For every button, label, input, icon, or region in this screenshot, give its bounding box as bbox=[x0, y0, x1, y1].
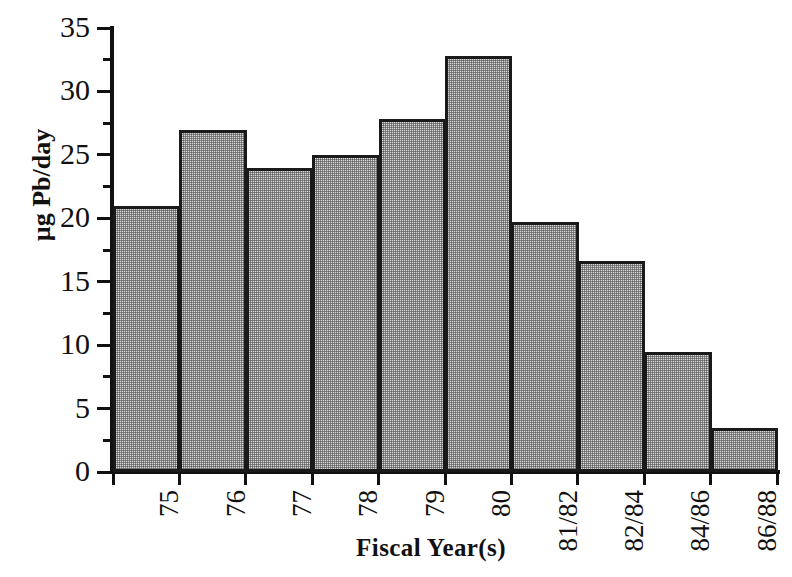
bar bbox=[711, 428, 778, 472]
bar bbox=[246, 168, 313, 472]
x-axis-tick bbox=[311, 472, 314, 485]
x-axis-tick-label: 80 bbox=[488, 490, 515, 517]
x-axis-tick bbox=[709, 472, 712, 485]
x-axis-tick-label: 75 bbox=[156, 490, 183, 517]
x-axis-tick bbox=[377, 472, 380, 485]
y-axis-major-tick bbox=[97, 344, 113, 347]
x-axis-tick bbox=[776, 472, 779, 485]
x-axis-tick bbox=[112, 472, 115, 485]
y-axis-minor-tick bbox=[103, 439, 113, 442]
y-axis-tick-label: 15 bbox=[60, 266, 90, 296]
y-axis-tick-label: 35 bbox=[60, 12, 90, 42]
x-axis-tick-label: 79 bbox=[422, 490, 449, 517]
x-axis-title: Fiscal Year(s) bbox=[0, 534, 792, 562]
y-axis-major-tick bbox=[97, 153, 113, 156]
y-axis-minor-tick bbox=[103, 122, 113, 125]
y-axis-tick-label: 30 bbox=[60, 75, 90, 105]
x-axis-tick bbox=[643, 472, 646, 485]
bar bbox=[113, 206, 180, 472]
y-axis-major-tick bbox=[97, 280, 113, 283]
bar bbox=[379, 119, 446, 472]
y-axis-major-tick bbox=[97, 27, 113, 30]
x-axis-tick-label: 77 bbox=[289, 490, 316, 517]
y-axis-minor-tick bbox=[103, 185, 113, 188]
bar bbox=[578, 261, 645, 472]
x-axis-tick bbox=[510, 472, 513, 485]
bar bbox=[179, 130, 246, 473]
y-axis-major-tick bbox=[97, 407, 113, 410]
x-axis-tick bbox=[576, 472, 579, 485]
plot-area bbox=[113, 28, 777, 472]
y-axis-minor-tick bbox=[103, 58, 113, 61]
bar bbox=[511, 222, 578, 472]
x-axis-tick bbox=[178, 472, 181, 485]
bar bbox=[312, 155, 379, 472]
y-axis-minor-tick bbox=[103, 249, 113, 252]
y-axis-major-tick bbox=[97, 217, 113, 220]
x-axis-tick bbox=[244, 472, 247, 485]
bar bbox=[644, 352, 711, 473]
y-axis-tick-label: 5 bbox=[75, 393, 90, 423]
y-axis-major-tick bbox=[97, 90, 113, 93]
y-axis-minor-tick bbox=[103, 375, 113, 378]
bar-chart: 05101520253035 75767778798081/8282/8484/… bbox=[0, 0, 792, 577]
x-axis-tick-label: 78 bbox=[355, 490, 382, 517]
x-axis-tick-label: 76 bbox=[223, 490, 250, 517]
x-axis-tick bbox=[444, 472, 447, 485]
y-axis-tick-label: 25 bbox=[60, 139, 90, 169]
y-axis-tick-label: 10 bbox=[60, 329, 90, 359]
y-axis-title: µg Pb/day bbox=[27, 55, 57, 315]
bar bbox=[445, 56, 512, 472]
y-axis-tick-label: 0 bbox=[75, 456, 90, 486]
y-axis-tick-label: 20 bbox=[60, 202, 90, 232]
y-axis-minor-tick bbox=[103, 312, 113, 315]
